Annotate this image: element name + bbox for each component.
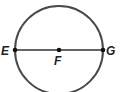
label-g: G xyxy=(106,44,115,58)
label-f: F xyxy=(54,54,62,68)
label-e: E xyxy=(1,44,10,58)
point-e xyxy=(13,48,18,53)
point-f xyxy=(57,48,62,53)
point-g xyxy=(101,48,106,53)
circle-diagram: E F G xyxy=(0,0,125,92)
